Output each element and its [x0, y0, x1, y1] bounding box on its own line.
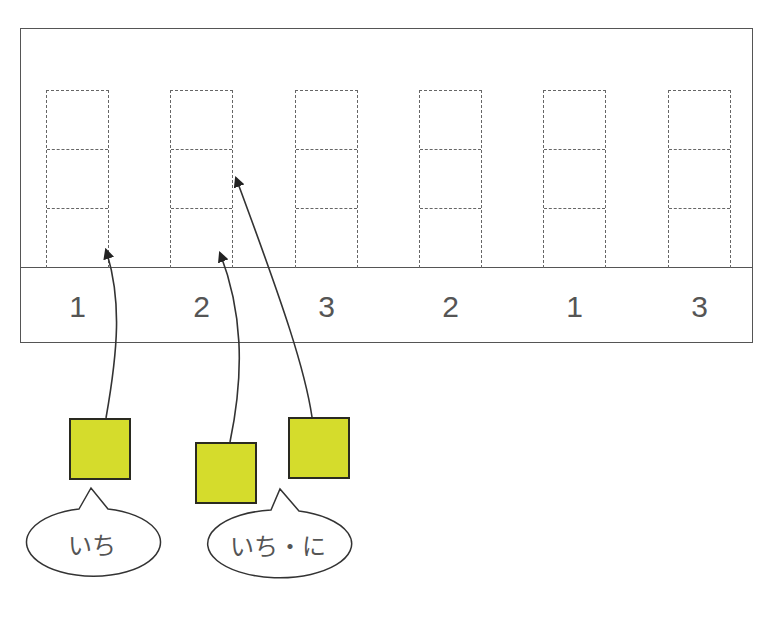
arrow-to-column-2-bottom — [220, 253, 239, 442]
arrow-to-column-2-middle — [236, 178, 312, 417]
yellow-block-2[interactable] — [195, 442, 257, 504]
arrow-to-column-1 — [106, 250, 117, 418]
speech-bubble-2-text: いち・に — [205, 527, 351, 562]
yellow-block-3[interactable] — [288, 417, 350, 479]
speech-bubble-1-text: いち — [25, 526, 158, 561]
yellow-block-1[interactable] — [69, 418, 131, 480]
